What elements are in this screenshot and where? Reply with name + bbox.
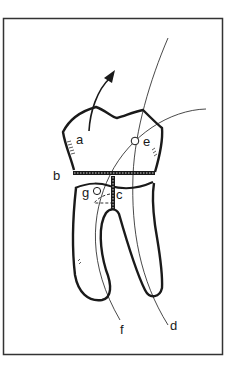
arrow-head-icon (104, 70, 115, 83)
label-f: f (120, 322, 124, 337)
center-marker-e (131, 137, 139, 145)
label-c: c (116, 187, 123, 202)
rotation-arrow (89, 78, 110, 131)
tooth-figure: a e b g c f d (0, 0, 234, 376)
label-d: d (170, 318, 177, 333)
center-marker-g (93, 187, 100, 194)
label-e: e (143, 134, 150, 149)
label-a: a (76, 132, 84, 147)
angle-dashed-line (94, 194, 111, 203)
tooth-diagram-canvas: a e b g c f d (0, 0, 234, 376)
label-g: g (82, 185, 89, 200)
label-b: b (53, 168, 60, 183)
canal-axis-f-line (95, 109, 206, 320)
